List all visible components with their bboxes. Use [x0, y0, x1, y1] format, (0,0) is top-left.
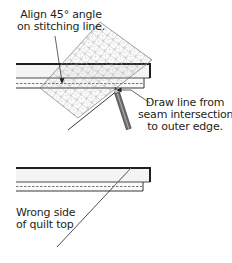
draw-line-callout: Draw line from seam intersection to oute… [138, 97, 232, 133]
quilt-top-strip [16, 182, 150, 191]
wrong-side-line2: of quilt top [16, 219, 80, 231]
wrong-side-callout: Wrong side of quilt top [16, 207, 80, 231]
border-strip [16, 168, 150, 182]
align-45-callout: Align 45° angle on stitching line. [16, 9, 106, 33]
align-callout-line2: on stitching line. [16, 21, 106, 33]
pencil-icon [113, 86, 131, 129]
draw-callout-line3: to outer edge. [138, 121, 232, 133]
